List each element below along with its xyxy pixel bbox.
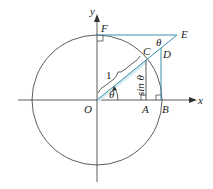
label-theta-E: θ <box>156 36 162 48</box>
label-F: F <box>100 22 108 34</box>
label-B: B <box>162 103 169 115</box>
label-O: O <box>84 103 92 115</box>
label-radius: 1 <box>106 69 112 81</box>
x-axis-arrow-icon <box>189 97 197 103</box>
label-A: A <box>141 103 149 115</box>
right-angle-F <box>97 35 103 41</box>
label-E: E <box>180 28 188 40</box>
label-sin-theta: sin θ <box>134 74 146 96</box>
y-axis-arrow-icon <box>94 14 100 22</box>
unit-circle-diagram: y x O A B C D E F θ θ 1 sin θ <box>0 0 213 189</box>
label-theta-O: θ <box>109 88 115 100</box>
y-axis-label: y <box>89 5 95 17</box>
x-axis-label: x <box>197 94 203 106</box>
label-C: C <box>143 45 151 57</box>
label-D: D <box>162 48 171 60</box>
right-angle-B <box>156 95 161 100</box>
